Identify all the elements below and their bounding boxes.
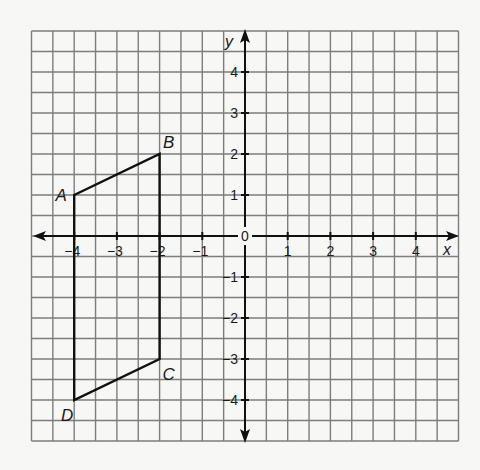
y-tick-label: 4 (230, 64, 238, 80)
y-tick-label: −2 (222, 310, 238, 326)
x-tick-label: 1 (284, 243, 292, 259)
x-tick-label: 4 (412, 243, 420, 259)
coordinate-plane: −4−3−2−112344321−1−2−3−4 0 x y ABCD (0, 0, 480, 470)
y-tick-label: 2 (230, 146, 238, 162)
x-tick-label: 2 (327, 243, 335, 259)
y-axis-label: y (224, 33, 234, 50)
x-tick-label: 3 (369, 243, 377, 259)
vertex-label-d: D (61, 406, 73, 425)
y-tick-label: 3 (230, 105, 238, 121)
x-tick-label: −4 (64, 243, 80, 259)
y-tick-label: −1 (222, 269, 238, 285)
y-tick-label: −4 (222, 392, 238, 408)
vertex-label-b: B (163, 133, 174, 152)
x-axis-label: x (442, 241, 452, 258)
x-tick-label: −3 (107, 243, 123, 259)
x-tick-label: −2 (150, 243, 166, 259)
y-tick-label: −3 (222, 351, 238, 367)
vertex-label-a: A (55, 186, 67, 205)
vertex-label-c: C (162, 365, 175, 384)
coordinate-diagram: −4−3−2−112344321−1−2−3−4 0 x y ABCD (0, 0, 480, 470)
origin-label: 0 (241, 228, 249, 244)
x-tick-label: −1 (192, 243, 208, 259)
y-tick-label: 1 (230, 187, 238, 203)
